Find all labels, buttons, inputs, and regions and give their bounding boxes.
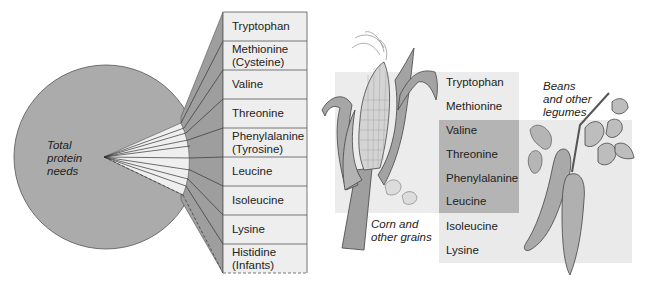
row-label: Isoleucine bbox=[232, 194, 284, 207]
row-label: Leucine bbox=[232, 165, 272, 178]
table-row-lysine: Lysine bbox=[223, 215, 307, 244]
table-row-leucine: Leucine bbox=[223, 157, 307, 186]
row-label: Threonine bbox=[232, 107, 284, 120]
aa-methionine: Methionine bbox=[446, 100, 502, 112]
row-label: Tryptophan bbox=[232, 20, 290, 33]
aa-valine: Valine bbox=[446, 124, 477, 136]
aa-isoleucine: Isoleucine bbox=[446, 220, 498, 232]
row-sublabel: (Cysteine) bbox=[232, 56, 288, 69]
aa-phenylalanine: Phenylalanine bbox=[446, 172, 518, 184]
circle-label-line-2: protein bbox=[47, 152, 82, 165]
table-row-phenylalanine: Phenylalanine (Tyrosine) bbox=[223, 128, 307, 157]
beans-label-line-3: legumes bbox=[543, 106, 592, 119]
table-row-valine: Valine bbox=[223, 70, 307, 99]
aa-lysine: Lysine bbox=[446, 244, 479, 256]
beans-label: Beans and other legumes bbox=[543, 80, 592, 119]
row-sublabel: (Tyrosine) bbox=[232, 143, 304, 156]
aa-tryptophan: Tryptophan bbox=[446, 76, 504, 88]
aa-leucine: Leucine bbox=[446, 195, 486, 207]
table-row-threonine: Threonine bbox=[223, 99, 307, 128]
beans-label-line-2: and other bbox=[543, 93, 592, 106]
row-label: Lysine bbox=[232, 223, 265, 236]
row-label: Methionine bbox=[232, 43, 288, 56]
row-label: Phenylalanine bbox=[232, 130, 304, 143]
circle-label: Total protein needs bbox=[47, 139, 82, 178]
diagram-graphics bbox=[0, 0, 652, 290]
row-label: Histidine bbox=[232, 246, 276, 259]
table-row-isoleucine: Isoleucine bbox=[223, 186, 307, 215]
row-sublabel: (Infants) bbox=[232, 259, 276, 272]
corn-label: Corn and other grains bbox=[371, 218, 432, 244]
aa-threonine: Threonine bbox=[446, 148, 498, 160]
beans-label-line-1: Beans bbox=[543, 80, 592, 93]
circle-label-line-3: needs bbox=[47, 165, 82, 178]
table-row-tryptophan: Tryptophan bbox=[223, 12, 307, 41]
row-label: Valine bbox=[232, 78, 263, 91]
corn-label-line-2: other grains bbox=[371, 231, 432, 244]
circle-label-line-1: Total bbox=[47, 139, 82, 152]
table-row-histidine: Histidine (Infants) bbox=[223, 244, 307, 273]
corn-label-line-1: Corn and bbox=[371, 218, 432, 231]
table-row-methionine: Methionine (Cysteine) bbox=[223, 41, 307, 70]
